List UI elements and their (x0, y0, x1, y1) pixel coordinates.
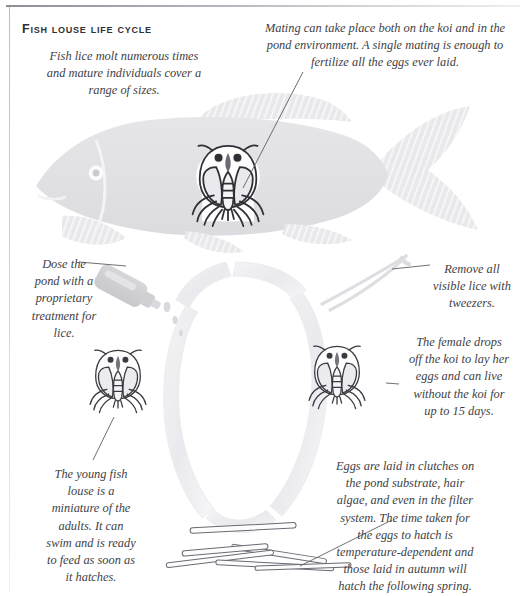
caption-sizes: Fish lice molt numerous times and mature… (18, 48, 230, 100)
page-title: Fish louse life cycle (22, 22, 152, 36)
juvenile-fish-louse (90, 350, 146, 413)
caption-eggs: Eggs are laid in clutches on the pond su… (296, 458, 514, 596)
caption-female: The female drops off the koi to lay her … (398, 334, 520, 420)
caption-young: The young fish louse is a miniature of t… (28, 466, 154, 586)
caption-dosing: Dose the pond with a proprietary treatme… (8, 256, 120, 342)
caption-tweezers: Remove all visible lice with tweezers. (424, 261, 520, 313)
caption-mating: Mating can take place both on the koi an… (254, 20, 516, 72)
leader-young (93, 417, 114, 460)
tweezers (322, 256, 409, 310)
